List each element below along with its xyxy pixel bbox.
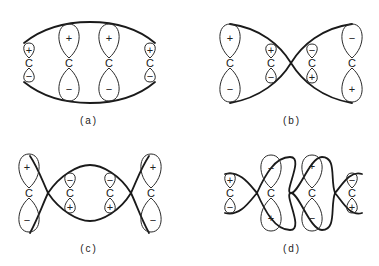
sign-top: + (66, 32, 72, 44)
panel-d-atom-1: + C − (225, 173, 236, 213)
sign-top: + (106, 32, 112, 44)
carbon-label: C (267, 57, 275, 69)
sign-bottom: + (349, 201, 355, 213)
carbon-label: C (348, 57, 356, 69)
carbon-label: C (105, 57, 113, 69)
carbon-label: C (226, 187, 234, 199)
carbon-label: C (146, 57, 154, 69)
panel-a-atom-2: + C − (59, 24, 79, 101)
carbon-label: C (308, 57, 316, 69)
panel-a-envelope-top (24, 22, 155, 43)
panel-d-atom-3: + C − (302, 155, 322, 231)
panel-b-atom-1: + C − (220, 24, 240, 102)
carbon-label: C (106, 187, 114, 199)
sign-top: − (349, 174, 355, 186)
sign-top: + (150, 161, 156, 173)
panel-b-atom-3: − C + (307, 44, 318, 83)
sign-top: − (67, 174, 73, 186)
sign-top: + (268, 44, 274, 56)
panel-a-atom-4: + C − (145, 43, 156, 82)
panel-a-envelope-bottom (24, 82, 155, 103)
sign-top: + (147, 44, 153, 56)
sign-top: − (268, 162, 274, 174)
panel-d-atom-2: − C + (261, 155, 281, 231)
panel-c-atom-2: − C + (65, 173, 76, 213)
carbon-label: C (348, 187, 356, 199)
panel-d-envelope-1 (225, 157, 362, 193)
sign-bottom: − (150, 214, 156, 226)
panel-c-caption: (c) (80, 243, 98, 254)
sign-top: + (26, 44, 32, 56)
sign-top: + (227, 174, 233, 186)
sign-bottom: − (309, 212, 315, 224)
panel-a-atom-1: + C − (24, 43, 35, 82)
sign-bottom: + (309, 71, 315, 83)
carbon-label: C (147, 187, 155, 199)
carbon-label: C (226, 57, 234, 69)
panel-d-caption: (d) (283, 243, 301, 254)
sign-top: + (309, 160, 315, 172)
panel-c: + C − − C + − C + + C − (c) (19, 154, 161, 254)
panel-a-atom-3: + C − (99, 24, 119, 101)
carbon-label: C (25, 187, 33, 199)
sign-bottom: − (268, 71, 274, 83)
sign-top: − (349, 32, 355, 44)
sign-bottom: − (227, 201, 233, 213)
sign-bottom: − (24, 214, 30, 226)
sign-bottom: − (106, 83, 112, 95)
panel-b-atom-2: + C − (266, 44, 277, 83)
sign-bottom: + (268, 212, 274, 224)
panel-b-atom-4: − C + (342, 24, 362, 102)
sign-top: + (227, 32, 233, 44)
panel-d: + C − − C + + C − − C + (d) (225, 155, 362, 254)
panel-c-envelope-1 (30, 156, 149, 193)
panel-a: + C − + C − + C − + C − (a) (24, 22, 156, 126)
sign-bottom: − (66, 83, 72, 95)
butadiene-pi-orbitals-figure: + C − + C − + C − + C − (a) (0, 0, 379, 266)
panel-c-envelope-2 (30, 193, 149, 233)
panel-b-caption: (b) (283, 115, 301, 126)
panel-a-caption: (a) (80, 115, 98, 126)
panel-b: + C − + C − − C + − C + (b) (220, 24, 362, 126)
panel-d-envelope-2 (225, 193, 362, 230)
sign-top: + (24, 161, 30, 173)
sign-bottom: − (147, 70, 153, 82)
carbon-label: C (308, 187, 316, 199)
sign-bottom: + (349, 83, 355, 95)
carbon-label: C (267, 187, 275, 199)
panel-c-atom-3: − C + (105, 173, 116, 213)
carbon-label: C (25, 57, 33, 69)
sign-bottom: − (227, 83, 233, 95)
panel-b-envelope-2 (230, 24, 352, 103)
sign-top: − (107, 174, 113, 186)
carbon-label: C (65, 57, 73, 69)
carbon-label: C (66, 187, 74, 199)
sign-bottom: − (26, 70, 32, 82)
sign-bottom: + (67, 201, 73, 213)
sign-bottom: + (107, 201, 113, 213)
sign-top: − (309, 44, 315, 56)
panel-d-atom-4: − C + (347, 173, 358, 213)
